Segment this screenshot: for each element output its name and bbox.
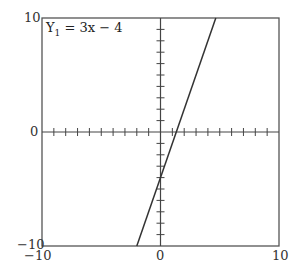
x-tick-label-zero: 0 bbox=[156, 248, 164, 263]
equation-label: Y1 = 3x − 4 bbox=[46, 20, 123, 38]
y-tick-label-top: 10 bbox=[24, 10, 41, 25]
x-tick-label-left: −10 bbox=[24, 248, 51, 263]
x-tick-label-right: 10 bbox=[272, 248, 289, 263]
plot-area bbox=[0, 0, 299, 269]
y-tick-label-zero: 0 bbox=[30, 124, 38, 139]
